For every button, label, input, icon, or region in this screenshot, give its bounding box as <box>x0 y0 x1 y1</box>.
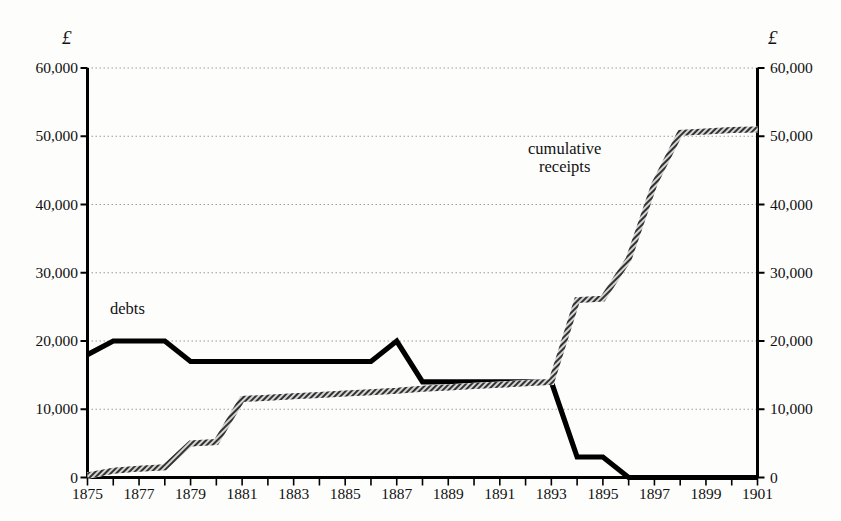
y-axis-tick-label: 40,000 <box>35 197 78 213</box>
y-axis-tick-label: 30,000 <box>35 265 78 281</box>
y-axis-tick-label: 20,000 <box>35 333 78 349</box>
y-axis-tick-label: 40,000 <box>770 197 813 213</box>
y-axis-tick-label: 50,000 <box>770 128 813 144</box>
x-axis-tick-label: 1889 <box>433 486 464 502</box>
series-line-cumulative-receipts-edge <box>88 129 758 475</box>
y-axis-tick-label: 30,000 <box>770 265 813 281</box>
y-axis-tick-label: 60,000 <box>770 60 813 76</box>
y-axis-tick-label: 20,000 <box>770 333 813 349</box>
annotation-debts: debts <box>110 300 145 318</box>
y-axis-tick-label: 10,000 <box>35 401 78 417</box>
y-axis-tick-label: 50,000 <box>35 128 78 144</box>
y-axis-tick-label: 60,000 <box>35 60 78 76</box>
x-axis-tick-label: 1901 <box>742 486 773 502</box>
x-axis-tick-label: 1885 <box>330 486 361 502</box>
x-axis-tick-label: 1877 <box>124 486 155 502</box>
y-axis-ticks <box>81 68 765 478</box>
x-axis-tick-label: 1883 <box>278 486 309 502</box>
y-axis-tick-label: 0 <box>770 470 778 486</box>
chart-container: £ £ 010,00020,00030,00040,00050,00060,00… <box>0 0 841 521</box>
y-axis-tick-label: 10,000 <box>770 401 813 417</box>
y-axis-tick-label: 0 <box>70 470 78 486</box>
x-axis-tick-label: 1899 <box>690 486 721 502</box>
annotation-cumulative-receipts: cumulative receipts <box>528 140 601 177</box>
x-axis-tick-label: 1887 <box>381 486 412 502</box>
x-axis-tick-label: 1897 <box>639 486 670 502</box>
plot-area <box>0 0 841 521</box>
x-axis-tick-label: 1879 <box>175 486 206 502</box>
x-axis-tick-label: 1881 <box>227 486 258 502</box>
x-axis-tick-label: 1875 <box>72 486 103 502</box>
x-axis-tick-label: 1891 <box>484 486 515 502</box>
x-axis-tick-label: 1893 <box>536 486 567 502</box>
x-axis-tick-label: 1895 <box>587 486 618 502</box>
